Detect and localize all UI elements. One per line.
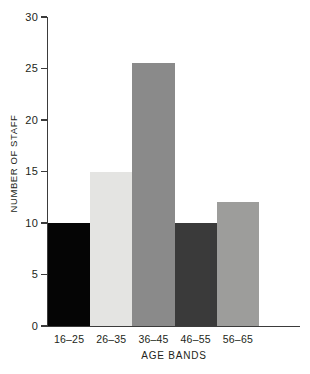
bar-chart-figure: NUMBER OF STAFF 051015202530 16–2526–353… <box>0 0 310 374</box>
y-tick-mark <box>41 274 47 275</box>
plot-area <box>48 17 300 326</box>
y-tick-label: 20 <box>0 115 38 126</box>
bar-26-35 <box>90 172 132 327</box>
y-tick-label: 10 <box>0 218 38 229</box>
y-tick: 25 <box>0 63 38 74</box>
y-tick-mark <box>41 171 47 172</box>
x-axis-line <box>47 326 300 327</box>
x-tick-label: 26–35 <box>87 331 135 347</box>
y-tick: 20 <box>0 115 38 126</box>
y-tick: 5 <box>0 269 38 280</box>
x-axis-tick-labels: 16–2526–3536–4546–5556–65 <box>48 331 300 347</box>
x-tick-label: 36–45 <box>129 331 177 347</box>
y-tick-mark <box>41 16 47 17</box>
y-tick-label: 15 <box>0 166 38 177</box>
y-tick-label: 5 <box>0 269 38 280</box>
y-tick: 30 <box>0 12 38 23</box>
bar-46-55 <box>175 223 217 326</box>
y-tick: 15 <box>0 166 38 177</box>
y-tick-mark <box>41 222 47 223</box>
y-tick-label: 0 <box>0 321 38 332</box>
y-axis-title-label: NUMBER OF STAFF <box>8 114 19 212</box>
y-tick: 10 <box>0 218 38 229</box>
x-tick-label: 16–25 <box>45 331 93 347</box>
y-tick-label: 25 <box>0 63 38 74</box>
x-tick-label: 56–65 <box>214 331 262 347</box>
y-tick-label: 30 <box>0 12 38 23</box>
x-axis-title: AGE BANDS <box>48 350 300 361</box>
bar-36-45 <box>132 63 174 326</box>
bar-56-65 <box>217 202 259 326</box>
bar-16-25 <box>48 223 90 326</box>
y-tick: 0 <box>0 321 38 332</box>
x-tick-label: 46–55 <box>172 331 220 347</box>
y-tick-mark <box>41 68 47 69</box>
y-tick-mark <box>41 119 47 120</box>
